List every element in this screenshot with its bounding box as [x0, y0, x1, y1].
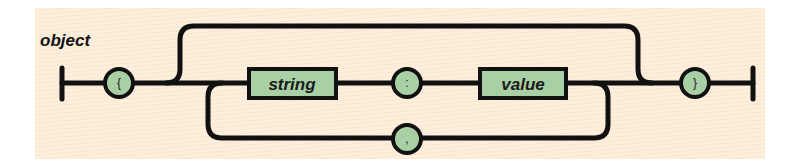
open-brace-label: { — [117, 76, 121, 90]
comma-label: , — [405, 132, 408, 146]
diagram-title: object — [40, 31, 91, 50]
comma-node: , — [393, 125, 421, 153]
close-brace-node: } — [681, 69, 709, 97]
object-syntax-diagram: object { string : value , } — [0, 0, 799, 165]
value-label: value — [501, 75, 544, 94]
value-node: value — [480, 69, 566, 98]
open-brace-node: { — [105, 69, 133, 97]
string-node: string — [249, 69, 336, 98]
colon-label: : — [405, 76, 408, 90]
colon-node: : — [393, 69, 421, 97]
string-label: string — [268, 75, 316, 94]
close-brace-label: } — [693, 76, 697, 90]
